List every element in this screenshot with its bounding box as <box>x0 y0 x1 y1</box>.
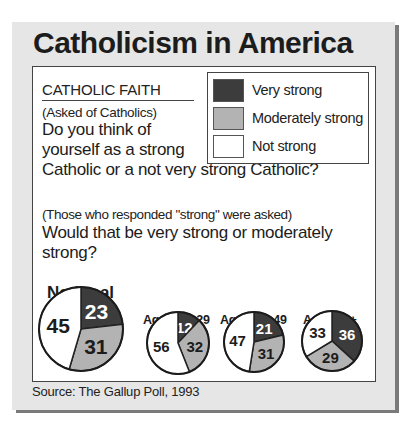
pie-ages-18-29: 123256 <box>147 312 209 374</box>
pie-charts: 233145123256213147362933 <box>33 67 375 381</box>
pie-value-label: 31 <box>258 345 275 362</box>
pie-value-label: 23 <box>85 300 108 323</box>
chart-title: Catholicism in America <box>33 26 353 60</box>
pie-value-label: 56 <box>153 338 170 355</box>
pie-value-label: 31 <box>84 335 108 358</box>
infographic-panel: Catholicism in America CATHOLIC FAITH (A… <box>12 22 395 410</box>
pie-value-label: 21 <box>256 320 273 337</box>
pie-value-label: 47 <box>229 332 246 349</box>
pie-ages-30-49: 213147 <box>224 312 284 372</box>
pie-value-label: 29 <box>322 349 339 366</box>
pie-value-label: 36 <box>339 326 356 343</box>
pie-value-label: 45 <box>46 314 70 337</box>
source-note: Source: The Gallup Poll, 1993 <box>32 384 199 399</box>
pie-national: 233145 <box>39 287 123 371</box>
pie-value-label: 32 <box>186 338 203 355</box>
pie-ages-50-: 362933 <box>302 311 362 371</box>
pie-value-label: 33 <box>309 324 326 341</box>
chart-body: CATHOLIC FAITH (Asked of Catholics) Do y… <box>32 66 376 382</box>
